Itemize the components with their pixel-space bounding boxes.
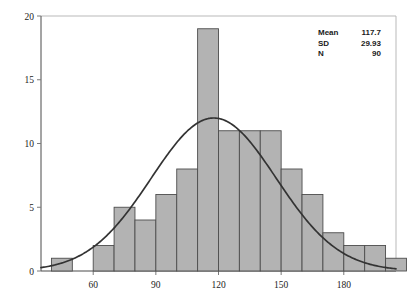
stat-value: 90 [372,49,381,58]
y-tick-label: 15 [25,75,35,85]
histogram-bar [281,169,302,271]
stat-label: N [318,49,324,58]
histogram-bar [156,195,177,272]
histogram-bar [198,29,219,271]
stat-value: 117.7 [361,28,381,37]
histogram-bar [135,220,156,271]
x-tick-label: 60 [88,280,98,290]
x-tick-label: 90 [151,280,161,290]
x-tick-label: 150 [274,280,289,290]
histogram-bar [260,131,281,271]
y-tick-group: 05101520 [25,12,42,277]
x-tick-label: 180 [337,280,352,290]
y-tick-label: 0 [29,267,34,277]
histogram-bar [93,246,114,272]
stats-legend: Mean117.7SD29.93N90 [318,28,382,58]
histogram-bar [219,131,240,271]
y-tick-label: 20 [25,12,35,22]
stat-value: 29.93 [361,39,382,48]
y-tick-label: 10 [25,139,35,149]
histogram-bars [51,29,406,271]
stat-label: Mean [318,28,339,37]
x-tick-label: 120 [211,280,226,290]
y-axis: 05101520 [25,12,42,277]
x-axis: 6090120150180 [41,271,396,290]
y-tick-label: 5 [29,203,34,213]
histogram-chart: 05101520 6090120150180 Mean117.7SD29.93N… [0,0,418,305]
x-tick-group: 6090120150180 [88,271,351,290]
histogram-bar [302,195,323,272]
stat-label: SD [318,39,329,48]
chart-canvas: 05101520 6090120150180 Mean117.7SD29.93N… [0,0,418,305]
histogram-bar [177,169,198,271]
